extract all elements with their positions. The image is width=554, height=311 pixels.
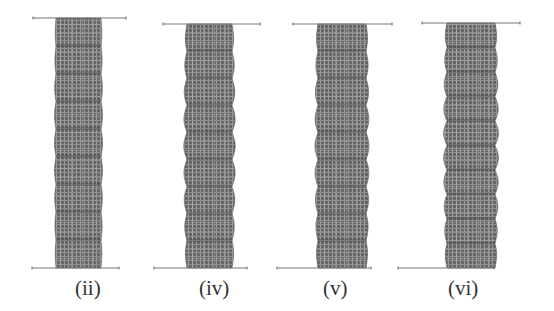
node-band [187, 185, 232, 188]
panel-label-ii: (ii) [75, 276, 101, 300]
node-band [56, 210, 101, 213]
node-band [56, 155, 101, 158]
node-band [318, 239, 366, 242]
node-band [318, 49, 366, 52]
node-band [56, 72, 101, 75]
node-band [447, 46, 495, 49]
node-band [187, 239, 232, 242]
node-band [447, 242, 495, 245]
panel-v [277, 23, 392, 270]
node-band [56, 238, 101, 241]
node-band [318, 130, 366, 133]
panel-label-vi: (vi) [448, 276, 478, 300]
node-band [187, 76, 232, 79]
node-band [318, 185, 366, 188]
node-band [447, 119, 495, 122]
node-band [187, 49, 232, 52]
panel-iv [154, 23, 260, 270]
node-band [187, 130, 232, 133]
node-band [447, 95, 495, 98]
panel-vi [398, 22, 520, 270]
node-band [447, 168, 495, 171]
node-band [447, 193, 495, 196]
column-mesh-overlay [55, 18, 103, 268]
panel-label-v: (v) [323, 276, 348, 300]
column-mesh-overlay [184, 24, 235, 268]
node-band [447, 144, 495, 147]
node-band [318, 76, 366, 79]
node-band [187, 103, 232, 106]
column-mesh-overlay [315, 24, 369, 268]
node-band [447, 217, 495, 220]
node-band [318, 103, 366, 106]
panel-ii [32, 17, 126, 270]
node-band [318, 212, 366, 215]
node-band [187, 212, 232, 215]
node-band [187, 158, 232, 161]
node-band [447, 70, 495, 73]
panels-group [32, 17, 520, 270]
node-band [56, 183, 101, 186]
node-band [56, 44, 101, 47]
panel-label-iv: (iv) [199, 276, 229, 300]
node-band [56, 127, 101, 130]
node-band [56, 99, 101, 102]
node-band [318, 158, 366, 161]
buckling-modes-figure: (ii) (iv) (v) (vi) [0, 0, 554, 311]
